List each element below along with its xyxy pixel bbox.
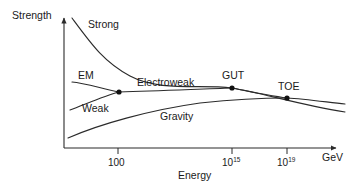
y-axis-label: Strength [12,10,52,21]
x-tick-label-10e19-base: 10 [277,157,288,168]
x-tick-label-10e15-exponent: 15 [233,156,240,163]
x-axis-unit-label: GeV [322,152,343,163]
x-tick-label-10e19-exponent: 19 [288,156,295,163]
point-electroweak-unification [116,89,121,94]
x-axis-label: Energy [178,170,211,181]
curve-electroweak [119,88,232,92]
x-tick-label-10e15: 1015 [222,158,240,168]
curve-unified-post-toe [287,98,345,104]
curve-label-weak: Weak [82,103,109,114]
curve-em [72,82,119,92]
x-tick-label-100: 100 [108,158,125,168]
force-unification-diagram: Strength Strong EM Weak Electroweak Grav… [0,0,362,189]
x-tick-label-10e19: 1019 [277,158,295,168]
curve-label-em: EM [78,70,94,81]
plot-canvas [0,0,362,189]
x-tick-label-10e15-base: 10 [222,157,233,168]
point-label-toe: TOE [278,81,299,92]
point-toe [284,95,289,100]
curve-label-electroweak: Electroweak [137,77,194,88]
point-gut [229,85,234,90]
curve-label-strong: Strong [88,19,119,30]
point-label-gut: GUT [222,70,244,81]
curve-label-gravity: Gravity [160,111,193,122]
